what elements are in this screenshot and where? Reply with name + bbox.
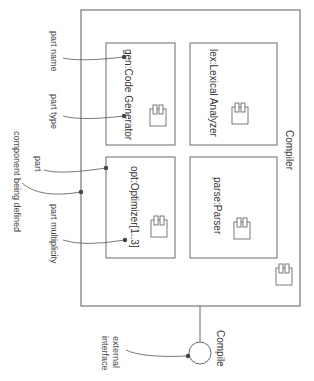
- annotation-label-line2: interface: [100, 336, 110, 371]
- compiler-label: Compiler: [284, 130, 295, 171]
- part-lex: lex:Lexical Analyzer: [190, 43, 277, 145]
- annotation-label: part: [33, 156, 43, 172]
- compile-interface: Compile: [189, 306, 226, 367]
- leader-dot: [122, 114, 126, 118]
- part-gen-box: [106, 43, 175, 145]
- leader-dot: [122, 55, 126, 59]
- annotation-label-line1: external: [111, 336, 121, 368]
- part-opt-label: opt:Optimizer[1..3]: [129, 166, 140, 248]
- leader-dot: [186, 354, 190, 358]
- annotation-label: part name: [49, 31, 59, 72]
- part-gen-label: gen:Code Generator: [123, 49, 134, 141]
- leader-line: [22, 183, 81, 194]
- component-diagram: Compiler gen:Code Generator lex:Lexical …: [0, 0, 314, 381]
- part-parse-box: [190, 157, 277, 258]
- interface-label: Compile: [215, 330, 226, 367]
- leader-line: [126, 350, 188, 356]
- leader-dot: [79, 190, 83, 194]
- annotation-label: part type: [49, 94, 59, 129]
- part-lex-label: lex:Lexical Analyzer: [208, 49, 219, 137]
- leader-dot: [104, 166, 108, 170]
- annotation-label: part multiplicity: [49, 204, 59, 264]
- interface-lollipop-icon: [189, 342, 211, 364]
- part-lex-box: [190, 43, 277, 145]
- part-opt: opt:Optimizer[1..3]: [106, 157, 175, 258]
- part-gen: gen:Code Generator: [106, 43, 175, 145]
- leader-dot: [123, 238, 127, 242]
- part-parse-label: parse:Parser: [212, 177, 223, 235]
- part-parse: parse:Parser: [190, 157, 277, 258]
- annotation-label: component being defined: [12, 131, 22, 232]
- annotation-external-interface: external interface: [100, 336, 190, 371]
- annotation-component-being-defined: component being defined: [12, 131, 83, 232]
